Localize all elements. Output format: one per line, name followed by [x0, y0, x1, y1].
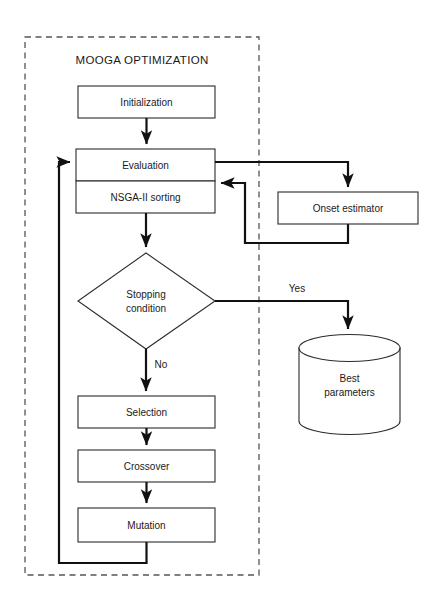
node-initialization-label: Initialization	[120, 97, 172, 108]
node-selection: Selection	[78, 396, 215, 428]
group-title: MOOGA OPTIMIZATION	[76, 54, 209, 66]
node-nsga-ii-sorting-label: NSGA-II sorting	[110, 192, 180, 203]
node-onset-estimator-label: Onset estimator	[313, 203, 384, 214]
node-mutation: Mutation	[78, 508, 215, 542]
flowchart-diagram: MOOGA OPTIMIZATION Initialization Evalua…	[0, 0, 442, 605]
node-onset-estimator: Onset estimator	[278, 192, 418, 224]
node-selection-label: Selection	[126, 407, 167, 418]
node-best-parameters-label-line2: parameters	[324, 387, 375, 398]
edge-label-yes: Yes	[289, 283, 305, 294]
node-best-parameters-label: Best	[339, 373, 359, 384]
node-initialization: Initialization	[78, 86, 215, 118]
edge-mutation-to-evaluation-loop	[59, 162, 147, 563]
node-crossover-label: Crossover	[124, 461, 170, 472]
node-stopping-condition-label-line2: condition	[126, 303, 166, 314]
node-nsga-ii-sorting: NSGA-II sorting	[76, 181, 215, 213]
node-stopping-condition-label: Stopping	[126, 289, 165, 300]
node-evaluation-label: Evaluation	[122, 160, 169, 171]
node-best-parameters: Best parameters	[299, 335, 400, 435]
node-mutation-label: Mutation	[127, 520, 165, 531]
node-stopping-condition: Stopping condition	[78, 253, 215, 349]
node-crossover: Crossover	[78, 450, 215, 482]
edge-label-no: No	[155, 359, 168, 370]
node-evaluation: Evaluation	[76, 149, 215, 181]
edge-stopping-yes-to-best-parameters	[215, 301, 348, 329]
